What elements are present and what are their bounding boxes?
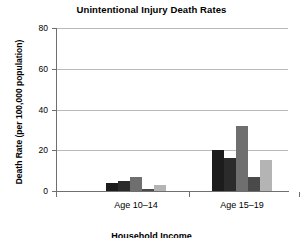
bar[interactable] [224,158,236,191]
bar-group [212,28,272,191]
bar[interactable] [118,181,130,191]
chart-container: Unintentional Injury Death Rates Death R… [0,0,303,238]
y-axis-spine [56,28,57,192]
y-axis-tick-label: 80 [24,23,48,33]
y-axis-tick [52,110,56,111]
x-axis-spine [56,191,289,192]
bar[interactable] [248,177,260,191]
bar[interactable] [260,160,272,191]
x-axis-tick [189,192,190,197]
y-axis-tick-label: 60 [24,64,48,74]
x-axis-tick-label: Age 10–14 [114,200,158,210]
y-axis-tick [52,69,56,70]
bar[interactable] [212,150,224,191]
x-axis-tick-label: Age 15–19 [220,200,264,210]
y-axis-tick-label: 0 [24,186,48,196]
x-axis-tick-origin [56,192,57,197]
y-axis-tick-labels: 020406080 [22,0,48,238]
plot-area [56,28,288,191]
bar[interactable] [106,183,118,191]
y-axis-tick-label: 40 [24,105,48,115]
bar-group [106,28,166,191]
bar[interactable] [236,126,248,191]
x-axis-label: Household Income [0,231,303,238]
y-axis-tick [52,28,56,29]
y-axis-tick-label: 20 [24,145,48,155]
x-axis-tick [299,192,300,197]
bar[interactable] [130,177,142,191]
y-axis-tick [52,150,56,151]
